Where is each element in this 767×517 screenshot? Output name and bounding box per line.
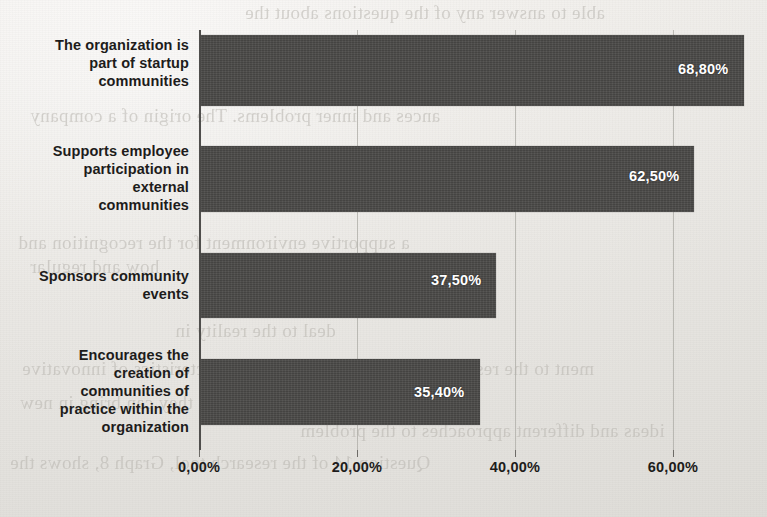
xtick-label-60: 60,00% (648, 459, 698, 475)
category-label-0: The organization is part of startup comm… (55, 36, 189, 90)
bar-value-2: 37,50% (431, 272, 481, 288)
tick-mark-60 (673, 450, 674, 457)
bar-0[interactable] (201, 35, 744, 106)
category-label-3: Encourages the creation of communities o… (60, 346, 189, 436)
bar-value-3: 35,40% (414, 384, 464, 400)
tick-mark-40 (515, 450, 516, 457)
tick-mark-20 (357, 450, 358, 457)
bar-1[interactable] (201, 146, 694, 212)
xtick-label-0: 0,00% (178, 459, 220, 475)
bar-value-1: 62,50% (629, 168, 679, 184)
xtick-label-20: 20,00% (332, 459, 382, 475)
chart-page: able to answer any of the questions abou… (0, 0, 767, 517)
xtick-label-40: 40,00% (490, 459, 540, 475)
category-label-1: Supports employee participation in exter… (53, 142, 189, 214)
bar-value-0: 68,80% (678, 61, 728, 77)
plot-area: 68,80% 62,50% 37,50% 35,40% The organiza… (0, 0, 767, 517)
category-label-2: Sponsors community events (39, 267, 189, 303)
tick-mark-0 (199, 450, 200, 457)
